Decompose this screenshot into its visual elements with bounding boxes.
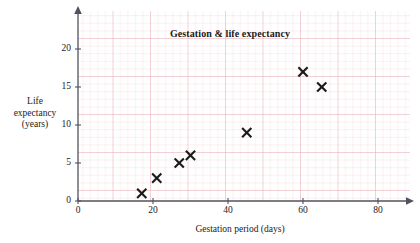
grid-background [78, 11, 410, 201]
x-tick-label-0: 0 [65, 205, 91, 215]
y-tick-label-0: 0 [53, 195, 71, 205]
y-tick-label-5: 5 [53, 157, 71, 167]
y-tick-label-10: 10 [53, 119, 71, 129]
x-tick-label-60: 60 [290, 205, 316, 215]
y-tick-label-15: 15 [53, 81, 71, 91]
chart-title: Gestation & life expectancy [140, 28, 320, 39]
y-axis-label-line-2: expectancy [4, 108, 66, 120]
y-tick-label-20: 20 [53, 43, 71, 53]
scatter-plot-figure: Gestation & life expectancy Life expecta… [0, 0, 420, 243]
x-tick-label-80: 80 [365, 205, 391, 215]
y-axis-label-line-1: Life [4, 96, 66, 108]
x-tick-label-20: 20 [140, 205, 166, 215]
x-axis-label: Gestation period (days) [150, 224, 330, 234]
x-tick-label-40: 40 [215, 205, 241, 215]
